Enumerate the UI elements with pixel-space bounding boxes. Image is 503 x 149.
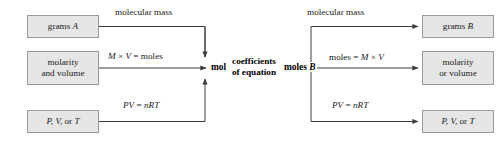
box-molarity-or-volume-line2: or volume [439,68,477,80]
pv-right-equals: = [343,100,353,110]
box-molarity-or-volume: molarity or volume [422,51,494,85]
pv-left-nrt: nRT [144,100,159,110]
box-p-v-or-t-left-vars: P, V, [46,116,62,126]
box-p-v-or-t-right: P, V, or T [422,110,494,133]
node-moles-b-text: moles [284,62,307,72]
edge-label-moles-equals-m-times-v: moles = M × V [327,52,386,62]
edge-label-coefficients-of-equation: coefficients of equation [226,56,282,78]
node-moles-b: moles B [283,62,317,72]
mv-right-v: V [378,52,384,62]
box-grams-a: grams A [27,15,99,38]
box-molarity-and-volume-line1: molarity [47,57,78,69]
mv-right-equals: = [351,52,361,62]
pv-right-nrt: nRT [353,100,368,110]
box-p-v-or-t-left-conj: or [62,116,74,126]
edge-label-molecular-mass-right: molecular mass [305,7,366,17]
box-grams-b-symbol: B [468,21,474,31]
pv-right-pv: PV [332,100,343,110]
stoichiometry-flowchart: grams A molarity and volume P, V, or T g… [0,0,503,149]
coefficients-line1: coefficients [226,56,282,67]
node-moles-b-symbol: B [309,62,315,72]
box-molarity-and-volume-line2: and volume [41,68,84,80]
edge-label-pv-nrt-left: PV = nRT [121,100,161,110]
mv-left-equals: = [131,51,141,61]
box-grams-a-label: grams [48,21,70,31]
box-grams-b-label: grams [443,21,465,31]
box-p-v-or-t-right-conj: or [457,116,469,126]
mv-left-m: M [108,51,116,61]
box-molarity-and-volume: molarity and volume [27,51,99,85]
pv-left-equals: = [134,100,144,110]
mv-right-times: × [368,52,378,62]
box-grams-a-symbol: A [73,21,79,31]
coefficients-line2: of equation [226,67,282,78]
edge-label-pv-nrt-right: PV = nRT [330,100,370,110]
box-p-v-or-t-left: P, V, or T [27,110,99,133]
edge-label-molecular-mass-left: molecular mass [113,7,174,17]
pv-left-pv: PV [123,100,134,110]
edge-label-m-times-v-equals-moles: M × V = moles [106,51,165,61]
box-p-v-or-t-right-lastvar: T [469,116,474,126]
box-molarity-or-volume-line1: molarity [442,57,473,69]
mv-right-result: moles [329,52,351,62]
box-p-v-or-t-left-lastvar: T [74,116,79,126]
mv-left-times: × [116,51,126,61]
box-grams-b: grams B [422,15,494,38]
mv-left-result: moles [141,51,163,61]
box-p-v-or-t-right-vars: P, V, [441,116,457,126]
